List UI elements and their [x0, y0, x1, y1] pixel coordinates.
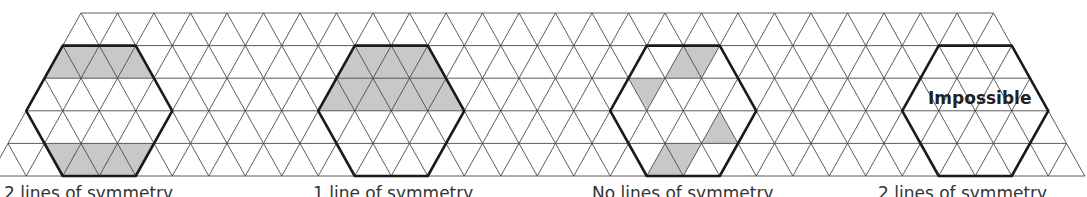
shade-piece-c	[702, 111, 739, 144]
caption-hex-1: 2 lines of symmetry	[4, 183, 173, 197]
isometric-grid-figure: Impossible	[0, 0, 1087, 197]
caption-hex-3: No lines of symmetry	[592, 183, 773, 197]
impossible-label: Impossible	[928, 88, 1031, 108]
shade-piece-b	[629, 78, 666, 111]
caption-hex-2: 1 line of symmetry	[313, 183, 473, 197]
caption-hex-4: 2 lines of symmetry	[878, 183, 1047, 197]
